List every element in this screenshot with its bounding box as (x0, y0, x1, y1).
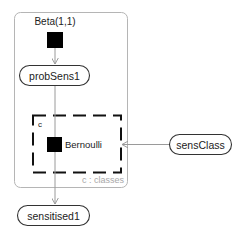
outer-plate-label: c : classes (82, 175, 125, 185)
sensclass-label: sensClass (176, 139, 224, 151)
bernoulli-factor-label: Bernoulli (65, 139, 102, 150)
bernoulli-factor-square (47, 137, 62, 152)
sensitised1-label: sensitised1 (27, 210, 80, 222)
inner-plate-label: c (38, 120, 42, 129)
probsens1-label: probSens1 (29, 70, 80, 82)
factor-graph-canvas: c : classes c Beta(1,1) probSens1 Bernou… (0, 0, 242, 235)
beta-factor-label: Beta(1,1) (34, 16, 75, 27)
beta-factor-square (47, 32, 63, 48)
sensclass-node[interactable]: sensClass (170, 135, 232, 155)
outer-plate[interactable]: c : classes (15, 13, 128, 188)
beta-factor-node[interactable]: Beta(1,1) (34, 16, 75, 48)
bernoulli-factor-node[interactable]: Bernoulli (47, 137, 102, 152)
sensitised1-node[interactable]: sensitised1 (18, 206, 90, 226)
probsens1-node[interactable]: probSens1 (20, 66, 90, 86)
